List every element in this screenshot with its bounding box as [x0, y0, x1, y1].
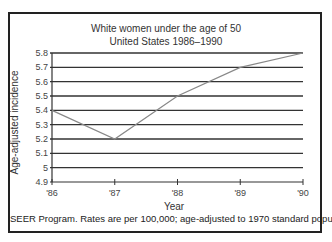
gridline: 5.1 — [35, 148, 303, 158]
gridline: 5.6 — [35, 77, 303, 87]
x-tick-label: '86 — [46, 188, 58, 198]
y-tick-label: 5.7 — [35, 62, 48, 72]
x-tick-label: '90 — [297, 188, 309, 198]
y-tick-label: 5.1 — [35, 148, 48, 158]
y-tick-label: 5.3 — [35, 120, 48, 130]
y-tick-label: 5.6 — [35, 77, 48, 87]
y-tick-label: 5.4 — [35, 105, 48, 115]
y-tick-label: 5.5 — [35, 91, 48, 101]
footnote: SEER Program. Rates are per 100,000; age… — [10, 213, 322, 224]
x-tick-label: '87 — [109, 188, 121, 198]
gridline: 5.4 — [35, 105, 303, 115]
y-tick-label: 5 — [43, 163, 48, 173]
x-axis: 4.9 — [35, 177, 303, 187]
gridline: 5 — [43, 163, 303, 173]
x-axis-label: Year — [0, 201, 332, 212]
y-tick-label: 5.2 — [35, 134, 48, 144]
gridline: 5.7 — [35, 62, 303, 72]
gridline: 5.8 — [35, 48, 303, 58]
x-tick-label: '89 — [234, 188, 246, 198]
gridline: 5.2 — [35, 134, 303, 144]
y-tick-label: 4.9 — [35, 177, 48, 187]
y-tick-label: 5.8 — [35, 48, 48, 58]
x-tick-label: '88 — [172, 188, 184, 198]
gridline: 5.5 — [35, 91, 303, 101]
y-axis-label: Age-adjusted incidence — [9, 63, 20, 183]
